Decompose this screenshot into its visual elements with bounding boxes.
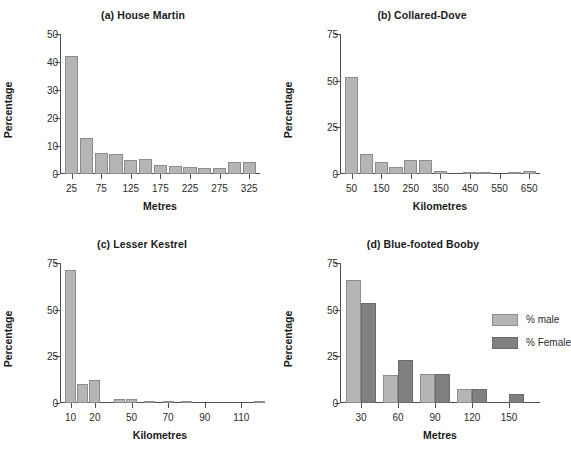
panel-c-title: (c) Lesser Kestrel: [0, 238, 280, 250]
bar-250: [198, 168, 211, 174]
x-tick-mark: [72, 174, 73, 179]
bar-male-30: [346, 280, 361, 403]
x-tick-label: 90: [415, 413, 455, 423]
bar-125: [124, 160, 137, 174]
panel-collared-dove: (b) Collared-Dove Percentage Kilometres …: [280, 0, 560, 229]
bar-175: [154, 165, 167, 174]
y-tick-label: 75: [298, 259, 338, 269]
legend-swatch-female-icon: [492, 337, 518, 349]
panel-b-y-axis-title: Percentage: [282, 55, 294, 165]
bar-100: [109, 154, 122, 174]
y-tick-label: 10: [18, 142, 58, 152]
y-tick-label: 25: [18, 352, 58, 362]
x-tick-mark: [381, 174, 382, 179]
bar-325: [243, 162, 256, 174]
bar-500: [478, 172, 491, 174]
x-tick-label: 150: [489, 413, 529, 423]
bar-350: [434, 171, 447, 174]
panel-d-x-axis-title: Metres: [340, 429, 540, 441]
panel-d-y-axis: [340, 263, 341, 403]
panel-d-title: (d) Blue-footed Booby: [280, 238, 560, 250]
panel-c-y-axis-title: Percentage: [2, 284, 14, 394]
x-tick-label: 650: [509, 184, 549, 194]
bar-250: [404, 160, 417, 174]
x-tick-label: 20: [75, 413, 115, 423]
panel-a-plot-area: Percentage Metres 01020304050 2575125175…: [60, 34, 260, 174]
x-tick-mark: [131, 174, 132, 179]
bar-150: [375, 162, 388, 174]
bar-female-120: [472, 389, 487, 403]
x-tick-mark: [101, 174, 102, 179]
bar-50: [345, 77, 358, 174]
panel-d-y-axis-title: Percentage: [282, 284, 294, 394]
panel-blue-footed-booby: (d) Blue-footed Booby Percentage Metres …: [280, 229, 560, 458]
x-tick-mark: [205, 403, 206, 408]
bar-200: [169, 166, 182, 174]
y-tick-label: 75: [18, 259, 58, 269]
panel-a-y-axis: [60, 34, 61, 174]
x-tick-mark: [361, 403, 362, 408]
bar-150: [139, 159, 152, 174]
panel-c-y-axis: [60, 263, 61, 403]
bar-225: [183, 167, 196, 174]
panel-a-title: (a) House Martin: [0, 9, 280, 21]
bar-200: [389, 167, 402, 174]
bar-100: [360, 154, 373, 174]
panel-c-x-axis-title: Kilometres: [60, 429, 260, 441]
bar-450: [463, 172, 476, 174]
panel-house-martin: (a) House Martin Percentage Metres 01020…: [0, 0, 280, 229]
y-tick-label: 0: [18, 170, 58, 180]
y-tick-label: 30: [18, 86, 58, 96]
x-tick-label: 90: [185, 413, 225, 423]
x-tick-mark: [132, 403, 133, 408]
bar-600: [508, 172, 521, 174]
x-tick-mark: [190, 174, 191, 179]
bar-female-60: [398, 360, 413, 403]
x-tick-mark: [71, 403, 72, 408]
x-tick-mark: [160, 174, 161, 179]
y-tick-label: 0: [298, 399, 338, 409]
x-tick-label: 120: [452, 413, 492, 423]
bar-650: [523, 171, 536, 174]
y-tick-label: 50: [18, 30, 58, 40]
x-tick-mark: [440, 174, 441, 179]
y-tick-label: 50: [18, 306, 58, 316]
x-tick-mark: [470, 174, 471, 179]
panel-c-plot-area: Percentage Kilometres 0255075 1020507090…: [60, 263, 260, 403]
panel-a-y-axis-title: Percentage: [2, 55, 14, 165]
x-tick-label: 50: [112, 413, 152, 423]
y-tick-label: 50: [298, 77, 338, 87]
y-tick-label: 0: [298, 170, 338, 180]
x-tick-mark: [95, 403, 96, 408]
legend-label-male: % male: [526, 314, 559, 325]
bar-male-120: [457, 389, 472, 403]
panel-lesser-kestrel: (c) Lesser Kestrel Percentage Kilometres…: [0, 229, 280, 458]
legend-swatch-male-icon: [492, 314, 518, 326]
y-tick-label: 40: [18, 58, 58, 68]
bar-female-90: [435, 374, 450, 403]
x-tick-label: 70: [148, 413, 188, 423]
y-tick-label: 20: [18, 114, 58, 124]
bar-60: [144, 401, 155, 403]
panel-a-x-axis-title: Metres: [60, 200, 260, 212]
x-tick-mark: [220, 174, 221, 179]
bar-50: [80, 138, 93, 174]
x-tick-label: 110: [221, 413, 261, 423]
x-tick-mark: [352, 174, 353, 179]
bar-20: [89, 380, 100, 403]
panel-b-y-axis: [340, 34, 341, 174]
bar-25: [65, 56, 78, 174]
panel-b-x-axis-title: Kilometres: [340, 200, 540, 212]
panel-b-plot-area: Percentage Kilometres 0255075 5015025035…: [340, 34, 540, 174]
x-tick-mark: [411, 174, 412, 179]
bar-300: [228, 162, 241, 174]
x-tick-mark: [249, 174, 250, 179]
x-tick-mark: [435, 403, 436, 408]
bar-female-30: [361, 303, 376, 403]
x-tick-label: 325: [229, 184, 269, 194]
panel-d-legend: % male % Female: [492, 311, 571, 357]
bar-male-90: [420, 374, 435, 403]
legend-item-male: % male: [492, 311, 571, 328]
x-tick-mark: [241, 403, 242, 408]
